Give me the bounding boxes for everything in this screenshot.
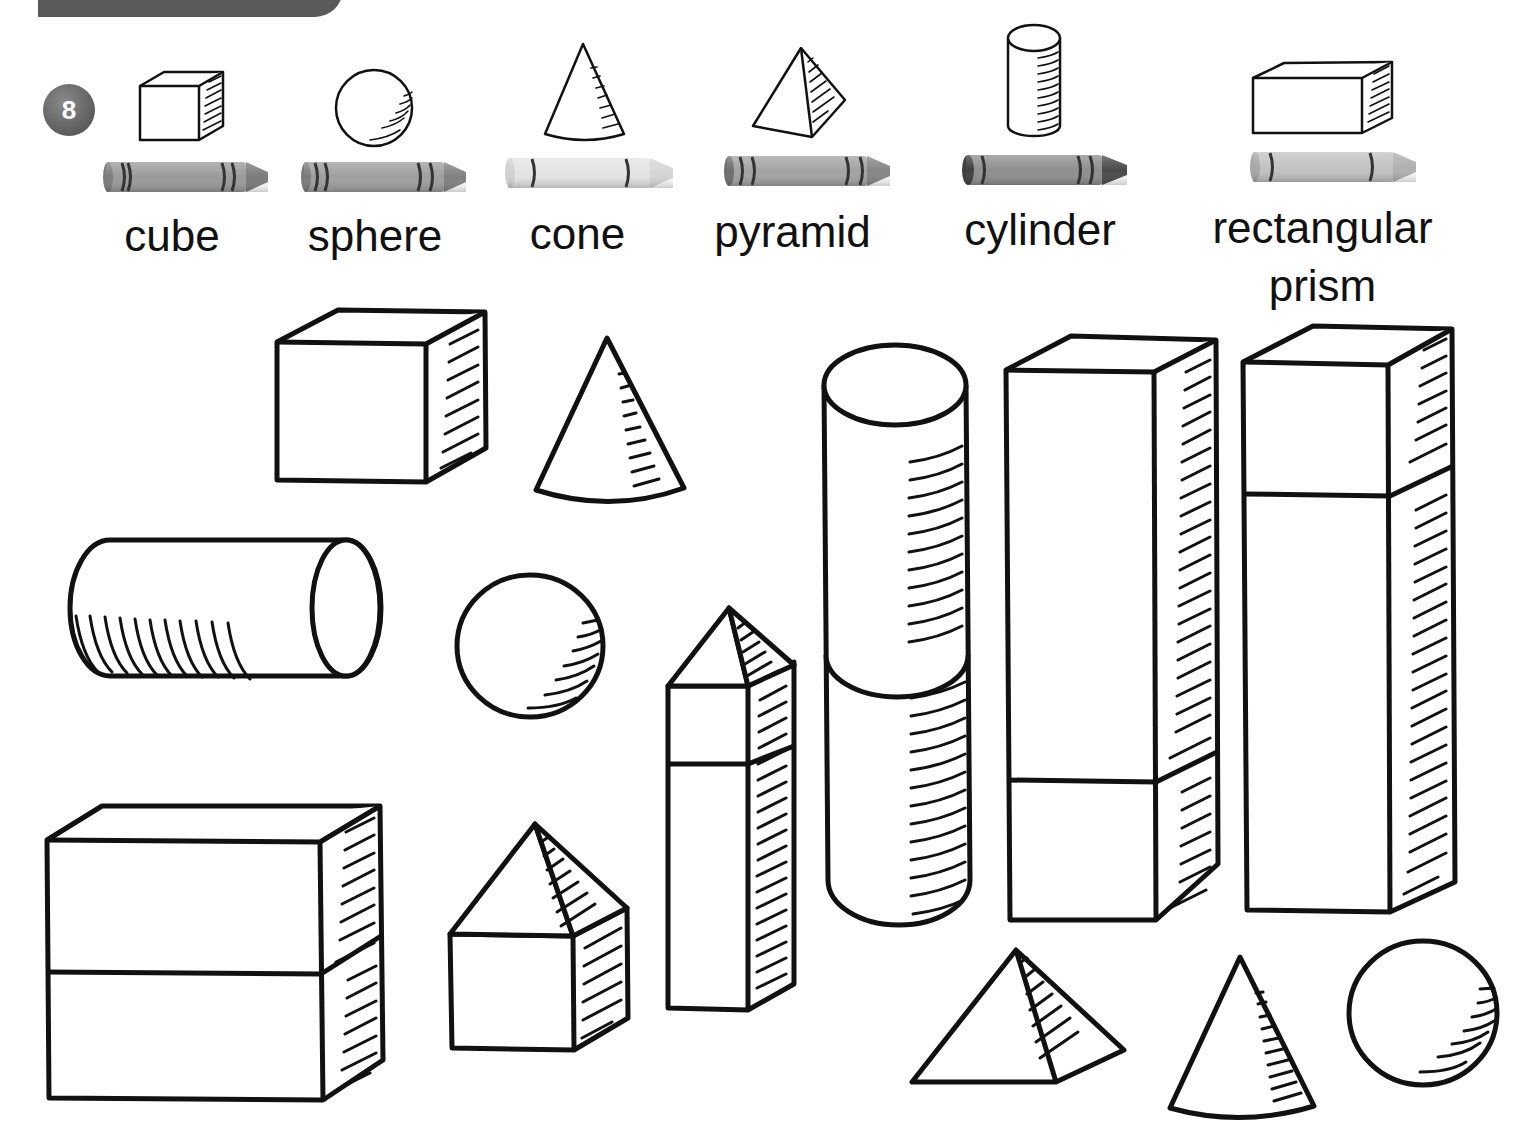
- scene-sphere-bottom[interactable]: [1349, 941, 1497, 1085]
- scene-rectangular-prism-tall-2[interactable]: [1243, 326, 1455, 912]
- scene-rectangular-prism-tall-1[interactable]: [1006, 336, 1218, 920]
- legend-pyramid-icon: [753, 48, 845, 137]
- scene-cone[interactable]: [536, 338, 684, 502]
- scene-cylinder-stacked[interactable]: [824, 345, 970, 925]
- legend-sphere-icon: [336, 70, 412, 146]
- scene-cylinder-horizontal[interactable]: [70, 540, 381, 679]
- crayon-cylinder-color[interactable]: [962, 155, 1127, 185]
- legend-rectangular-prism-icon: [1253, 62, 1392, 133]
- crayon-sphere-color[interactable]: [301, 162, 466, 192]
- crayon-pyramid-color[interactable]: [724, 156, 890, 186]
- scene-cube[interactable]: [277, 310, 486, 482]
- crayon-cube-color[interactable]: [103, 162, 268, 192]
- scene-rectangular-prism-stacked[interactable]: [47, 806, 383, 1100]
- legend-cylinder-icon: [1008, 25, 1060, 136]
- scene-sphere[interactable]: [457, 575, 603, 717]
- scene-pyramid-on-cube[interactable]: [450, 824, 628, 1050]
- legend-cone-icon: [545, 44, 624, 140]
- scene-pyramid[interactable]: [912, 950, 1124, 1082]
- legend-cube-icon: [140, 72, 223, 140]
- crayon-rectangular-prism-color[interactable]: [1250, 152, 1416, 182]
- crayon-cone-color[interactable]: [505, 158, 673, 188]
- scene-pyramid-on-prism[interactable]: [668, 608, 794, 1010]
- worksheet-canvas: [0, 0, 1522, 1137]
- scene-cone-bottom[interactable]: [1170, 957, 1314, 1118]
